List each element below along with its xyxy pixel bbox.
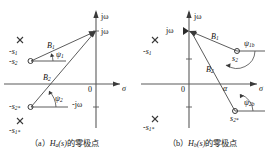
- point-jw-label-b: jω: [166, 27, 174, 35]
- panel-a-canvas: [0, 0, 136, 137]
- origin-label-a: 0: [88, 86, 92, 94]
- imag-axis-b: [186, 10, 191, 128]
- jw-point-marker-b: [183, 27, 189, 35]
- imag-axis-a: [93, 10, 98, 128]
- axis-real-label-a: σ: [122, 85, 126, 93]
- arc-psi1-arrow-a: [50, 53, 54, 57]
- real-axis-b: [141, 81, 257, 86]
- panel-b-diagram: jω jω 0 α σ B1 B2 ψ1b ψ2b -s1 s2 s2* -s1…: [137, 0, 273, 137]
- origin-label-b: 0: [181, 86, 185, 94]
- angle-psi1b-label-b: ψ1b: [244, 40, 254, 49]
- caption-b: （b）Hb(s)的零极点: [168, 138, 237, 151]
- axis-imag-label-b: jω: [194, 13, 202, 21]
- pole-zero-figure: jω jω -jω 0 σ B1 B2 ψ1 ψ2 -s1 -s2 -s2* -…: [0, 0, 273, 161]
- vector-b2-a: [31, 31, 96, 107]
- zero-lower-label-b: s2*: [230, 115, 239, 124]
- axis-imag-label-a: jω: [101, 13, 109, 21]
- point-minus-jw-label-a: -jω: [72, 101, 82, 109]
- arc-psi1b-arrow-b: [226, 63, 231, 68]
- zero-lower-label-a: -s2*: [9, 103, 20, 112]
- vector-b2-label-a: B2: [43, 74, 51, 83]
- pole-upper-label-b: -s1: [143, 48, 152, 57]
- vector-b1-label-b: B1: [211, 33, 219, 42]
- angle-psi2b-label-b: ψ2b: [244, 99, 254, 108]
- vector-b2-label-b: B2: [206, 66, 214, 75]
- alpha-label-b: α: [223, 85, 227, 93]
- pole-upper-label-a: -s1: [9, 48, 18, 57]
- vector-b1-label-a: B1: [47, 42, 55, 51]
- pole-lower-label-b: -s1*: [143, 124, 154, 133]
- angle-psi2-label-a: ψ2: [55, 95, 63, 104]
- pole-upper-marker-a: [17, 37, 23, 43]
- point-jw-label-a: jω: [101, 28, 109, 36]
- real-axis-a: [4, 81, 120, 86]
- caption-a: （a）Ha(s)的零极点: [30, 138, 99, 151]
- panel-b-canvas: [137, 0, 273, 137]
- panel-a-diagram: jω jω -jω 0 σ B1 B2 ψ1 ψ2 -s1 -s2 -s2* -…: [0, 0, 136, 137]
- angle-psi1-label-a: ψ1: [56, 51, 64, 60]
- pole-lower-label-a: -s1*: [9, 127, 20, 136]
- caption-row: （a）Ha(s)的零极点 （b）Hb(s)的零极点: [0, 138, 273, 161]
- pole-upper-marker-b: [152, 37, 158, 43]
- zero-upper-label-b: s2: [232, 55, 238, 64]
- pole-lower-marker-b: [152, 116, 158, 122]
- axis-real-label-b: σ: [259, 85, 263, 93]
- arc-psi1b-b: [227, 51, 256, 68]
- pole-lower-marker-a: [17, 118, 23, 124]
- zero-upper-label-a: -s2: [9, 58, 18, 67]
